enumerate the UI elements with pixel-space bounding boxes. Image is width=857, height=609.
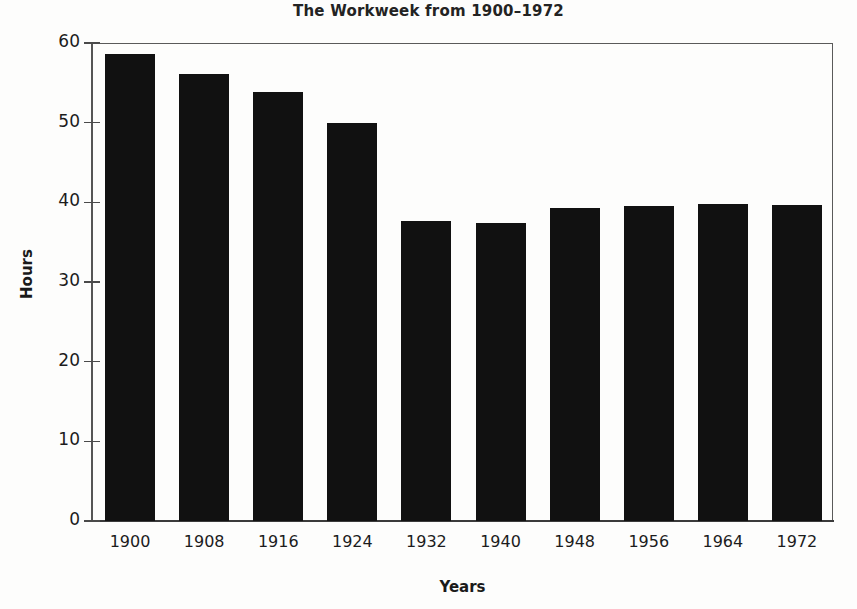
x-axis-title: Years	[92, 578, 833, 596]
bar	[401, 221, 451, 521]
bar	[327, 123, 377, 521]
x-axis-tick-label: 1940	[461, 532, 541, 551]
x-axis-tick-label: 1972	[757, 532, 837, 551]
x-axis-tick-label: 1900	[90, 532, 170, 551]
bar	[476, 223, 526, 521]
x-axis-tick-label: 1932	[386, 532, 466, 551]
x-axis-tick-label: 1924	[312, 532, 392, 551]
bar	[772, 205, 822, 521]
x-axis-tick-label: 1916	[238, 532, 318, 551]
chart-canvas: The Workweek from 1900–1972 010203040506…	[0, 0, 857, 609]
x-axis-tick-label: 1964	[683, 532, 763, 551]
bar	[105, 54, 155, 521]
x-axis-tick-label: 1908	[164, 532, 244, 551]
x-axis-tick-label: 1956	[609, 532, 689, 551]
x-axis-tick-label: 1948	[535, 532, 615, 551]
bar	[698, 204, 748, 521]
bar	[624, 206, 674, 521]
bars-layer: 1900190819161924193219401948195619641972	[0, 0, 857, 609]
bar	[179, 74, 229, 521]
bar	[253, 92, 303, 521]
bar	[550, 208, 600, 521]
